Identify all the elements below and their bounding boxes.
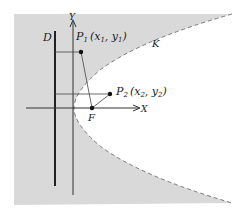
focus-point bbox=[90, 106, 94, 110]
parabola-diagram: D Y X F K P1(x1, y1) P2(x2, y2) bbox=[0, 0, 249, 216]
label-x: X bbox=[140, 104, 148, 114]
label-f: F bbox=[87, 112, 96, 123]
label-k: K bbox=[151, 38, 160, 49]
label-d: D bbox=[42, 31, 52, 44]
point-p2 bbox=[108, 92, 112, 96]
label-p2: P2(x2, y2) bbox=[115, 85, 167, 99]
p2-to-focus-line bbox=[92, 94, 110, 108]
label-y: Y bbox=[69, 12, 76, 22]
point-p1 bbox=[79, 50, 83, 54]
